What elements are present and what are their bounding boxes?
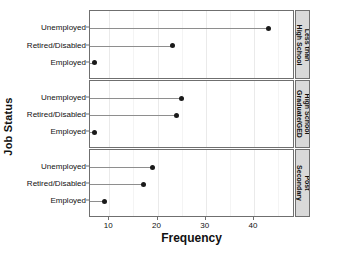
y-axis-tick-labels: UnemployedRetired/DisabledEmployedUnempl… xyxy=(0,0,86,253)
facet-strip-label: Less thanHigh School xyxy=(295,10,310,79)
facet-panel xyxy=(89,10,294,79)
facet-panel xyxy=(89,149,294,217)
gridline-minor xyxy=(230,11,231,78)
y-tick-label: Unemployed xyxy=(6,23,86,32)
facet-strip-label: PostSecondary xyxy=(295,149,310,217)
facet-strip-text: Less thanHigh School xyxy=(295,24,310,65)
plot-panels xyxy=(89,10,294,217)
gridline-minor xyxy=(182,150,183,216)
y-tick-label: Retired/Disabled xyxy=(6,179,86,188)
y-tick-label: Employed xyxy=(6,196,86,205)
facet-strip-text: High SchoolGraduate/GED xyxy=(295,90,310,138)
y-tick-label: Unemployed xyxy=(6,162,86,171)
y-tick-label: Unemployed xyxy=(6,93,86,102)
gridline-minor xyxy=(182,81,183,147)
gridline-major xyxy=(158,11,159,78)
data-point[interactable] xyxy=(141,182,146,187)
data-point[interactable] xyxy=(170,43,175,48)
data-point[interactable] xyxy=(179,96,184,101)
gridline-major xyxy=(109,11,110,78)
lollipop-stem xyxy=(90,115,177,116)
frequency-by-job-status-chart: Job Status UnemployedRetired/DisabledEmp… xyxy=(0,0,338,253)
gridline-minor xyxy=(182,11,183,78)
x-tick-mark xyxy=(253,217,254,220)
gridline-minor xyxy=(133,150,134,216)
x-tick-label: 10 xyxy=(104,221,113,230)
gridline-minor xyxy=(133,11,134,78)
gridline-major xyxy=(109,150,110,216)
data-point[interactable] xyxy=(174,113,179,118)
x-axis-title: Frequency xyxy=(89,231,294,245)
data-point[interactable] xyxy=(92,130,97,135)
lollipop-stem xyxy=(90,46,172,47)
gridline-minor xyxy=(278,81,279,147)
plot-area xyxy=(90,81,293,147)
lollipop-stem xyxy=(90,167,153,168)
lollipop-stem xyxy=(90,184,143,185)
gridline-minor xyxy=(230,150,231,216)
x-tick-label: 20 xyxy=(152,221,161,230)
gridline-minor xyxy=(133,81,134,147)
x-tick-label: 30 xyxy=(200,221,209,230)
gridline-major xyxy=(109,81,110,147)
gridline-major xyxy=(158,150,159,216)
x-tick-mark xyxy=(157,217,158,220)
lollipop-stem xyxy=(90,28,268,29)
y-tick-label: Retired/Disabled xyxy=(6,40,86,49)
gridline-minor xyxy=(278,150,279,216)
data-point[interactable] xyxy=(266,26,271,31)
gridline-major xyxy=(206,11,207,78)
gridline-minor xyxy=(278,11,279,78)
facet-strip-label: High SchoolGraduate/GED xyxy=(295,80,310,148)
gridline-major xyxy=(254,150,255,216)
y-tick-label: Employed xyxy=(6,127,86,136)
data-point[interactable] xyxy=(150,165,155,170)
gridline-major xyxy=(254,11,255,78)
data-point[interactable] xyxy=(102,199,107,204)
y-tick-label: Employed xyxy=(6,57,86,66)
gridline-major xyxy=(254,81,255,147)
gridline-major xyxy=(206,81,207,147)
lollipop-stem xyxy=(90,98,182,99)
gridline-major xyxy=(158,81,159,147)
plot-area xyxy=(90,150,293,216)
gridline-major xyxy=(206,150,207,216)
facet-panel xyxy=(89,80,294,148)
x-tick-label: 40 xyxy=(249,221,258,230)
data-point[interactable] xyxy=(92,60,97,65)
plot-area xyxy=(90,11,293,78)
facet-strip-text: PostSecondary xyxy=(295,165,310,201)
y-tick-label: Retired/Disabled xyxy=(6,110,86,119)
x-tick-mark xyxy=(108,217,109,220)
gridline-minor xyxy=(230,81,231,147)
x-tick-mark xyxy=(205,217,206,220)
x-axis-ticks: 10203040 xyxy=(89,217,294,231)
